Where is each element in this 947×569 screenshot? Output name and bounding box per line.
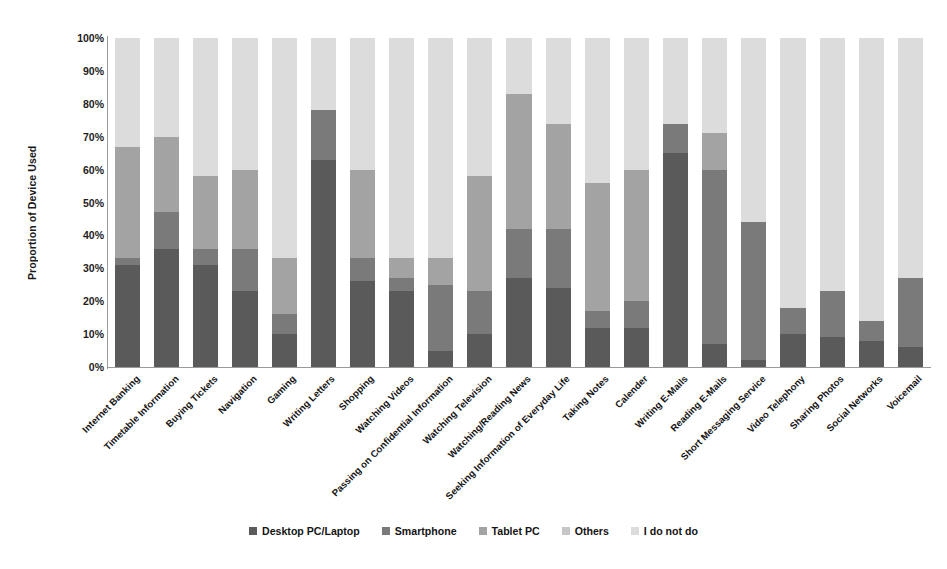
bar-segment — [624, 328, 649, 367]
y-axis-tick: 100% — [62, 32, 104, 44]
x-axis-category-label: Gaming — [265, 373, 298, 406]
bar-column[interactable] — [624, 38, 649, 367]
bar-segment — [193, 38, 218, 176]
bar-segment — [389, 258, 414, 278]
bar-segment — [859, 38, 884, 321]
bar-segment — [506, 229, 531, 278]
bar-column[interactable] — [311, 38, 336, 367]
bar-segment — [272, 38, 297, 258]
legend-swatch-icon — [631, 527, 639, 535]
legend-item[interactable]: Desktop PC/Laptop — [249, 525, 360, 537]
bar-segment — [663, 153, 688, 367]
bar-column[interactable] — [898, 38, 923, 367]
plot-area — [108, 38, 930, 367]
bar-segment — [702, 344, 727, 367]
legend-swatch-icon — [249, 527, 257, 535]
legend-label: Desktop PC/Laptop — [262, 525, 360, 537]
x-axis-category-label: Navigation — [216, 373, 259, 416]
legend-label: I do not do — [644, 525, 698, 537]
bar-column[interactable] — [741, 38, 766, 367]
bar-segment — [350, 170, 375, 259]
legend-item[interactable]: Tablet PC — [479, 525, 540, 537]
bar-segment — [820, 291, 845, 337]
chart-legend: Desktop PC/LaptopSmartphoneTablet PCOthe… — [0, 525, 947, 537]
bar-segment — [506, 278, 531, 367]
bar-segment — [311, 110, 336, 159]
bar-segment — [859, 341, 884, 367]
bar-segment — [232, 38, 257, 170]
bar-segment — [546, 288, 571, 367]
bar-segment — [350, 281, 375, 367]
bar-column[interactable] — [154, 38, 179, 367]
bar-segment — [898, 347, 923, 367]
bar-segment — [546, 124, 571, 229]
bar-segment — [506, 38, 531, 94]
bar-column[interactable] — [859, 38, 884, 367]
y-axis-tick: 30% — [62, 262, 104, 274]
bar-column[interactable] — [820, 38, 845, 367]
bar-segment — [154, 212, 179, 248]
y-axis-tick: 80% — [62, 98, 104, 110]
bar-segment — [624, 301, 649, 327]
x-axis-category-label: Watching Television — [420, 373, 493, 446]
bar-segment — [780, 334, 805, 367]
bar-segment — [389, 291, 414, 367]
legend-label: Tablet PC — [492, 525, 540, 537]
bar-segment — [624, 38, 649, 170]
bar-column[interactable] — [663, 38, 688, 367]
bar-segment — [232, 291, 257, 367]
x-axis-category-label: Shopping — [337, 373, 376, 412]
bar-segment — [232, 170, 257, 249]
legend-item[interactable]: I do not do — [631, 525, 698, 537]
bar-segment — [585, 311, 610, 327]
bar-segment — [272, 314, 297, 334]
bar-segment — [389, 278, 414, 291]
legend-swatch-icon — [562, 527, 570, 535]
bar-segment — [467, 334, 492, 367]
bar-column[interactable] — [428, 38, 453, 367]
bar-segment — [702, 133, 727, 169]
x-axis-category-label: Voicemail — [885, 373, 924, 412]
bar-column[interactable] — [193, 38, 218, 367]
bar-segment — [193, 265, 218, 367]
bar-column[interactable] — [350, 38, 375, 367]
bar-column[interactable] — [115, 38, 140, 367]
bar-segment — [115, 265, 140, 367]
bar-segment — [898, 278, 923, 347]
x-axis-category-label: Timetable Information — [101, 373, 180, 452]
legend-label: Smartphone — [395, 525, 457, 537]
bar-segment — [546, 229, 571, 288]
bar-column[interactable] — [546, 38, 571, 367]
bar-segment — [428, 351, 453, 367]
legend-item[interactable]: Smartphone — [382, 525, 457, 537]
bar-segment — [154, 249, 179, 367]
y-axis-tick: 60% — [62, 164, 104, 176]
bar-segment — [467, 38, 492, 176]
bar-column[interactable] — [780, 38, 805, 367]
bar-segment — [820, 337, 845, 367]
bar-column[interactable] — [585, 38, 610, 367]
y-axis-tick: 90% — [62, 65, 104, 77]
bar-column[interactable] — [506, 38, 531, 367]
bar-segment — [272, 334, 297, 367]
legend-item[interactable]: Others — [562, 525, 609, 537]
bar-segment — [311, 160, 336, 367]
bar-segment — [467, 291, 492, 334]
bar-column[interactable] — [467, 38, 492, 367]
legend-label: Others — [575, 525, 609, 537]
y-axis-tick: 40% — [62, 229, 104, 241]
bar-column[interactable] — [232, 38, 257, 367]
chart-page: Proportion of Device Used 0%10%20%30%40%… — [0, 0, 947, 569]
bar-column[interactable] — [389, 38, 414, 367]
bar-segment — [741, 38, 766, 222]
bar-segment — [428, 285, 453, 351]
bar-column[interactable] — [272, 38, 297, 367]
bar-segment — [115, 38, 140, 147]
bar-segment — [115, 258, 140, 265]
bar-segment — [311, 38, 336, 110]
bar-segment — [232, 249, 257, 292]
bar-segment — [663, 124, 688, 154]
bar-segment — [115, 147, 140, 259]
bar-segment — [154, 38, 179, 137]
bar-column[interactable] — [702, 38, 727, 367]
